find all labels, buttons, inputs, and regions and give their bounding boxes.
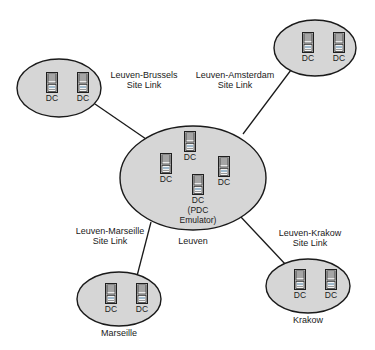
site-link-label-line1: Leuven-Brussels (110, 70, 177, 80)
site-caption-marseille: Marseille (101, 328, 137, 338)
site-link-label-leuven-brussels: Leuven-BrusselsSite Link (110, 70, 177, 91)
site-link-label-line2: Site Link (127, 80, 162, 90)
site-caption-krakow: Krakow (293, 315, 323, 325)
server-icon-leuven-4[interactable] (191, 174, 205, 195)
server-icon-leuven-2[interactable] (159, 153, 173, 174)
server-icon-leuven-3[interactable] (217, 156, 231, 177)
server-icon-krakow-1[interactable] (293, 269, 307, 290)
server-icon-glyph (217, 156, 231, 177)
server-icon-leuven-1[interactable] (183, 131, 197, 152)
dc-label-krakow-1: DC (294, 291, 306, 301)
server-icon-krakow-2[interactable] (324, 269, 338, 290)
server-icon-marseille-2[interactable] (135, 283, 149, 304)
dc-label-leuven-4: DC(PDCEmulator) (180, 196, 217, 225)
server-icon-glyph (159, 153, 173, 174)
server-icon-glyph (76, 72, 90, 93)
site-link-label-leuven-amsterdam: Leuven-AmsterdamSite Link (196, 70, 275, 91)
dc-label-amsterdam-1: DC (302, 54, 314, 64)
dc-label-brussels-1: DC (46, 94, 58, 104)
server-icon-glyph (135, 283, 149, 304)
site-link-label-leuven-marseille: Leuven-MarseilleSite Link (76, 226, 145, 247)
site-caption-leuven: Leuven (178, 236, 208, 246)
server-icon-amsterdam-1[interactable] (301, 32, 315, 53)
dc-label-brussels-2: DC (77, 94, 89, 104)
site-link-label-line1: Leuven-Marseille (76, 226, 145, 236)
server-icon-glyph (183, 131, 197, 152)
site-link-label-leuven-krakow: Leuven-KrakowSite Link (279, 228, 342, 249)
server-icon-glyph (324, 269, 338, 290)
site-ellipses-layer (0, 0, 375, 350)
site-link-label-line1: Leuven-Krakow (279, 228, 342, 238)
server-icon-glyph (332, 32, 346, 53)
site-link-label-line2: Site Link (218, 80, 253, 90)
dc-label-marseille-2: DC (136, 305, 148, 315)
site-link-label-line1: Leuven-Amsterdam (196, 70, 275, 80)
dc-label-amsterdam-2: DC (333, 54, 345, 64)
server-icon-marseille-1[interactable] (104, 283, 118, 304)
server-icon-glyph (191, 174, 205, 195)
server-icon-glyph (45, 72, 59, 93)
dc-label-leuven-3: DC (218, 178, 230, 188)
dc-label-krakow-2: DC (325, 291, 337, 301)
server-icon-glyph (104, 283, 118, 304)
site-link-label-line2: Site Link (293, 238, 328, 248)
server-icon-glyph (301, 32, 315, 53)
dc-label-marseille-1: DC (105, 305, 117, 315)
server-icon-amsterdam-2[interactable] (332, 32, 346, 53)
dc-label-leuven-2: DC (160, 175, 172, 185)
server-icon-glyph (293, 269, 307, 290)
dc-label-leuven-1: DC (184, 153, 196, 163)
server-icon-brussels-1[interactable] (45, 72, 59, 93)
site-link-label-line2: Site Link (93, 236, 128, 246)
server-icon-brussels-2[interactable] (76, 72, 90, 93)
site-topology-diagram: DCDCDCDCDCDCDCDC(PDCEmulator)LeuvenDCDCM… (0, 0, 375, 350)
